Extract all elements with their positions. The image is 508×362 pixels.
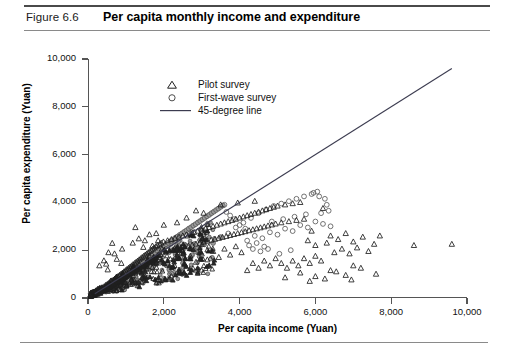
data-point-circle [268,230,273,235]
data-point-circle [288,248,293,253]
data-point-triangle [106,250,111,255]
data-point-triangle [332,250,337,255]
legend-label-45-degree-line: 45-degree line [198,104,262,117]
data-point-triangle [349,277,354,282]
data-point-circle [275,232,280,237]
data-point-triangle [328,233,333,238]
data-point-triangle [301,256,306,261]
data-point-triangle [449,241,454,246]
x-axis-title: Per capita income (Yuan) [88,323,467,334]
data-point-triangle [343,231,348,236]
data-point-triangle [195,266,200,270]
data-point-circle [298,223,303,228]
data-point-circle [277,251,282,256]
data-point-circle [322,196,327,201]
data-point-circle [250,247,255,252]
data-point-circle [245,238,250,243]
data-point-triangle [239,250,244,255]
data-point-triangle [154,231,159,236]
data-point-triangle [282,275,287,280]
data-point-circle [302,194,307,199]
data-point-circle [305,225,310,230]
y-axis-title: Per capita expenditure (Yuan) [21,54,32,254]
data-point-triangle [161,222,166,227]
data-point-triangle [286,219,291,224]
footer-rule [20,342,488,343]
line-sample-icon [160,104,194,117]
data-point-triangle [130,240,135,245]
data-point-circle [254,241,259,246]
data-point-circle [206,272,210,276]
data-point-triangle [354,245,359,250]
data-point-triangle [307,260,312,265]
data-point-triangle [307,278,312,283]
data-point-triangle [245,268,250,273]
data-point-triangle [377,233,382,238]
data-point-triangle [298,270,303,275]
data-point-triangle [142,238,147,243]
data-point-triangle [351,263,356,268]
data-point-triangle [305,238,310,243]
data-point-triangle [114,256,119,261]
data-point-triangle [222,246,227,251]
data-point-triangle [347,251,352,256]
data-point-triangle [328,268,333,273]
data-point-circle [326,208,331,213]
data-point-triangle [250,260,255,265]
data-point-triangle [335,237,340,242]
data-point-circle [324,202,329,207]
data-point-circle [258,249,263,254]
data-point-triangle [279,220,284,225]
data-point-triangle [97,263,102,268]
data-point-circle [286,199,291,204]
data-point-triangle [358,265,363,270]
figure-page: Figure 6.6 Per capita monthly income and… [0,0,508,362]
data-point-circle [313,219,318,224]
data-point-triangle [227,252,232,257]
data-markers-layer [0,0,508,362]
data-point-triangle [133,225,138,230]
data-point-circle [247,243,252,248]
data-point-triangle [105,267,110,272]
data-point-circle [328,224,333,229]
data-point-circle [290,229,295,234]
data-point-triangle [279,260,284,265]
data-point-triangle [313,243,318,248]
data-point-circle [260,236,265,241]
data-point-triangle [155,269,160,273]
data-point-triangle [256,265,261,270]
data-point-circle [317,194,322,199]
data-point-triangle [343,272,348,277]
scatter-chart: 02,0004,0006,0008,00010,00002,0004,0006,… [0,0,508,362]
data-point-triangle [119,246,124,251]
data-point-triangle [262,258,267,263]
data-point-triangle [313,253,318,258]
data-point-triangle [184,215,189,220]
data-point-triangle [284,265,289,270]
triangle-open-icon [160,78,194,91]
data-point-circle [319,211,324,216]
data-point-circle [294,196,299,201]
legend-label-first-wave-survey: First-wave survey [198,91,276,104]
data-point-circle [266,247,271,252]
data-point-triangle [112,251,117,256]
data-point-triangle [334,269,339,274]
data-point-circle [283,226,288,231]
data-point-triangle [371,241,376,246]
data-point-triangle [339,246,344,251]
legend-label-pilot-survey: Pilot survey [198,78,250,91]
data-point-triangle [366,248,371,253]
data-point-triangle [411,243,416,248]
data-point-triangle [207,263,212,267]
data-point-triangle [104,261,109,266]
data-point-triangle [318,258,323,263]
data-point-triangle [313,274,318,279]
data-point-triangle [373,271,378,276]
data-point-triangle [267,263,272,268]
data-point-triangle [141,244,146,249]
data-point-triangle [252,198,257,203]
data-point-triangle [193,208,198,213]
data-point-triangle [296,263,301,268]
data-point-circle [237,223,242,228]
data-point-triangle [201,210,206,215]
